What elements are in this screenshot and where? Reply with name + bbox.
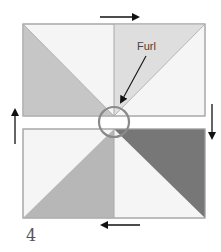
furl-label: Furl (137, 40, 156, 52)
folding-diagram (0, 0, 221, 252)
bottom-panel (23, 129, 205, 218)
top-panel (23, 24, 205, 116)
step-number: 4 (26, 226, 36, 245)
